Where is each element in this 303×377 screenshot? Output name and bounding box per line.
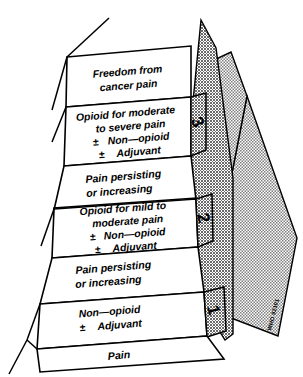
step-2-line-4-sign: ± [94,244,101,255]
guide-line-top-left [67,18,109,57]
base-label: Pain [107,348,131,362]
base-label-group: Pain [107,348,131,362]
ladder-diagram-svg: Freedom from cancer pain Opioid for mode… [0,0,303,377]
guide-line-step3-left-lower [52,107,66,142]
back-panel-far-3 [231,96,297,336]
guide-line-floor-left [27,340,37,349]
who-analgesic-ladder-figure: Freedom from cancer pain Opioid for mode… [0,0,303,377]
step-2-line-3-sign: ± [90,231,97,242]
guide-line-floor-diagonal [9,340,27,374]
step-1-line-2-sign: ± [79,322,86,333]
guide-line-step3-left [52,57,67,110]
